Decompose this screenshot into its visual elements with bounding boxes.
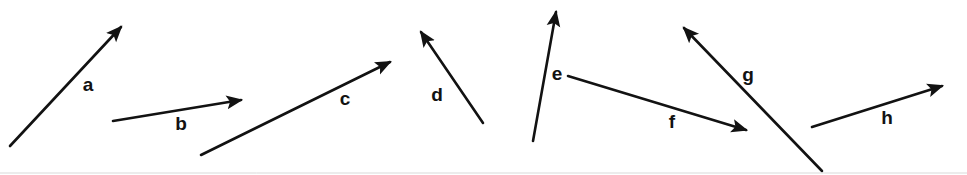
vector-label-a: a xyxy=(83,74,94,95)
label-group: abcdefgh xyxy=(83,63,893,134)
arrow-group xyxy=(10,12,942,171)
vector-label-g: g xyxy=(742,64,754,85)
vector-label-c: c xyxy=(340,88,351,109)
vector-diagram-figure: abcdefgh xyxy=(0,0,967,175)
vector-canvas: abcdefgh xyxy=(0,0,967,175)
vector-arrow-a xyxy=(10,27,121,146)
vector-label-e: e xyxy=(552,63,563,84)
vector-label-d: d xyxy=(431,84,443,105)
vector-label-f: f xyxy=(669,111,676,132)
vector-label-b: b xyxy=(175,113,187,134)
vector-label-h: h xyxy=(881,107,893,128)
vector-arrow-g xyxy=(684,28,822,171)
vector-arrow-h xyxy=(812,86,942,127)
vector-arrow-d xyxy=(421,32,483,123)
vector-arrow-c xyxy=(201,62,390,155)
vector-arrow-f xyxy=(568,76,746,130)
